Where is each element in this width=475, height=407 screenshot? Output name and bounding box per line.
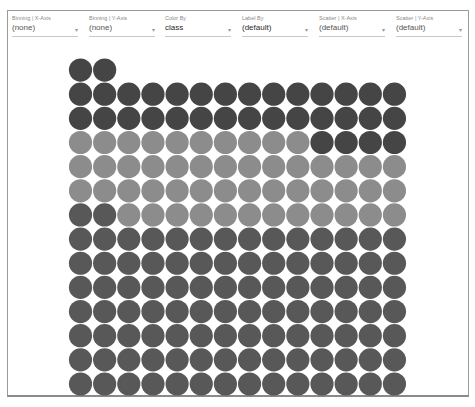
data-point[interactable] [214,324,237,347]
data-point[interactable] [190,83,213,106]
data-point[interactable] [262,324,285,347]
data-point[interactable] [286,107,309,130]
data-point[interactable] [214,228,237,251]
data-point[interactable] [383,348,406,371]
data-point[interactable] [141,107,164,130]
data-point[interactable] [335,83,358,106]
data-point[interactable] [166,300,189,323]
data-point[interactable] [214,179,237,202]
data-point[interactable] [310,179,333,202]
data-point[interactable] [69,155,92,178]
data-point[interactable] [166,203,189,226]
data-point[interactable] [359,372,382,395]
data-point[interactable] [190,348,213,371]
data-point[interactable] [359,300,382,323]
data-point[interactable] [262,252,285,275]
data-point[interactable] [141,228,164,251]
data-point[interactable] [310,107,333,130]
data-point[interactable] [190,276,213,299]
data-point[interactable] [262,83,285,106]
data-point[interactable] [238,131,261,154]
data-point[interactable] [335,131,358,154]
data-point[interactable] [166,276,189,299]
data-point[interactable] [238,179,261,202]
data-point[interactable] [286,300,309,323]
data-point[interactable] [69,131,92,154]
data-point[interactable] [335,276,358,299]
data-point[interactable] [359,324,382,347]
data-point[interactable] [310,324,333,347]
data-point[interactable] [286,324,309,347]
data-point[interactable] [383,300,406,323]
data-point[interactable] [359,276,382,299]
data-point[interactable] [214,107,237,130]
data-point[interactable] [93,83,116,106]
data-point[interactable] [286,131,309,154]
data-point[interactable] [166,131,189,154]
data-point[interactable] [286,155,309,178]
data-point[interactable] [310,155,333,178]
data-point[interactable] [117,107,140,130]
data-point[interactable] [383,83,406,106]
data-point[interactable] [310,83,333,106]
data-point[interactable] [310,131,333,154]
data-point[interactable] [310,276,333,299]
data-point[interactable] [262,348,285,371]
data-point[interactable] [166,252,189,275]
data-point[interactable] [117,179,140,202]
data-point[interactable] [286,203,309,226]
data-point[interactable] [262,203,285,226]
data-point[interactable] [286,252,309,275]
data-point[interactable] [335,228,358,251]
data-point[interactable] [117,276,140,299]
data-point[interactable] [93,155,116,178]
data-point[interactable] [190,155,213,178]
data-point[interactable] [69,324,92,347]
data-point[interactable] [190,324,213,347]
data-point[interactable] [214,348,237,371]
data-point[interactable] [117,228,140,251]
data-point[interactable] [69,300,92,323]
data-point[interactable] [310,252,333,275]
data-point[interactable] [214,276,237,299]
data-point[interactable] [359,228,382,251]
data-point[interactable] [238,155,261,178]
data-point[interactable] [69,276,92,299]
data-point[interactable] [262,155,285,178]
data-point[interactable] [166,83,189,106]
data-point[interactable] [286,276,309,299]
data-point[interactable] [335,372,358,395]
data-point[interactable] [69,348,92,371]
data-point[interactable] [93,348,116,371]
data-point[interactable] [383,155,406,178]
data-point[interactable] [117,348,140,371]
data-point[interactable] [359,252,382,275]
data-point[interactable] [359,179,382,202]
data-point[interactable] [93,228,116,251]
data-point[interactable] [286,372,309,395]
data-point[interactable] [310,300,333,323]
data-point[interactable] [214,155,237,178]
data-point[interactable] [69,203,92,226]
data-point[interactable] [238,348,261,371]
data-point[interactable] [166,107,189,130]
data-point[interactable] [117,252,140,275]
data-point[interactable] [359,348,382,371]
data-point[interactable] [190,252,213,275]
data-point[interactable] [69,83,92,106]
data-point[interactable] [214,372,237,395]
data-point[interactable] [190,300,213,323]
data-point[interactable] [166,155,189,178]
data-point[interactable] [383,131,406,154]
data-point[interactable] [214,131,237,154]
data-point[interactable] [335,155,358,178]
data-point[interactable] [93,372,116,395]
data-point[interactable] [262,372,285,395]
data-point[interactable] [262,300,285,323]
data-point[interactable] [166,228,189,251]
data-point[interactable] [383,107,406,130]
data-point[interactable] [93,179,116,202]
data-point[interactable] [190,203,213,226]
data-point[interactable] [359,131,382,154]
data-point[interactable] [310,203,333,226]
